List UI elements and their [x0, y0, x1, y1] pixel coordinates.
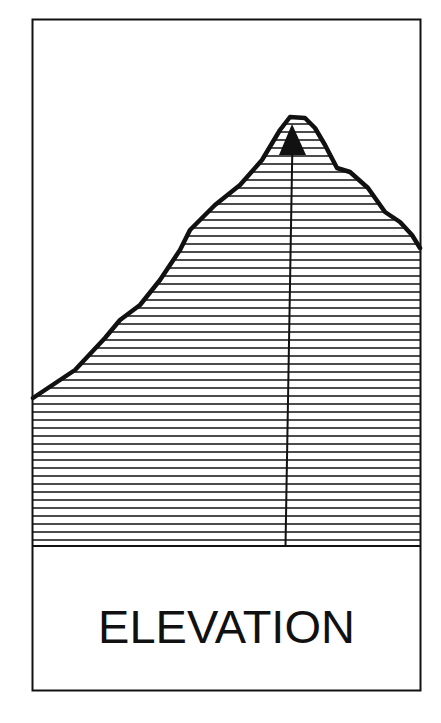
peak-vertical-line	[286, 140, 293, 546]
hatch-fill	[33, 124, 420, 540]
card-label: ELEVATION	[32, 600, 421, 654]
